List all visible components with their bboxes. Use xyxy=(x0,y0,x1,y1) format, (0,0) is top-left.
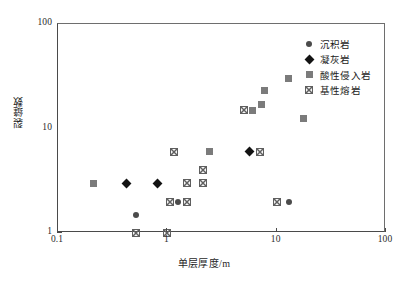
data-point xyxy=(199,179,207,187)
data-point xyxy=(183,198,191,206)
data-point xyxy=(166,198,174,206)
legend-item: 沉积岩 xyxy=(302,36,386,52)
data-point xyxy=(273,198,281,206)
x-axis-title: 单层厚度/m xyxy=(0,255,408,270)
data-point xyxy=(286,199,292,205)
legend-item: 酸性侵入岩 xyxy=(302,67,386,83)
x-tick-mark xyxy=(276,228,277,232)
legend-item: 基性熔岩 xyxy=(302,83,386,99)
data-point xyxy=(261,87,268,94)
legend-label: 凝灰岩 xyxy=(320,52,351,66)
figure-scatter-plot: 裂缝数 110100 0.1110100 单层厚度/m 沉积岩凝灰岩酸性侵入岩基… xyxy=(0,0,408,282)
data-point xyxy=(206,148,213,155)
legend-swatch xyxy=(302,84,316,96)
x-tick-label: 0.1 xyxy=(37,234,77,244)
data-point xyxy=(256,148,264,156)
data-point xyxy=(244,147,254,157)
y-tick-label: 100 xyxy=(22,17,52,27)
legend-label: 沉积岩 xyxy=(320,37,351,51)
marker-x-in-square xyxy=(305,86,313,94)
legend-swatch xyxy=(302,38,316,50)
data-point xyxy=(90,180,97,187)
x-tick-mark xyxy=(385,228,386,232)
x-tick-label: 10 xyxy=(256,234,296,244)
x-tick-mark xyxy=(166,228,167,232)
marker-square xyxy=(306,71,313,78)
data-point xyxy=(249,107,256,114)
data-point xyxy=(240,106,248,114)
legend-label: 基性熔岩 xyxy=(320,83,361,97)
data-point xyxy=(133,212,139,218)
data-point xyxy=(132,229,140,237)
data-point xyxy=(175,199,181,205)
legend-swatch xyxy=(302,69,316,81)
x-tick-label: 1 xyxy=(146,234,186,244)
data-point xyxy=(183,179,191,187)
legend-item: 凝灰岩 xyxy=(302,52,386,68)
data-point xyxy=(170,148,178,156)
legend-swatch xyxy=(302,53,316,65)
y-tick-mark xyxy=(57,232,62,233)
legend-label: 酸性侵入岩 xyxy=(320,68,371,82)
marker-diamond xyxy=(304,54,314,64)
x-tick-label: 100 xyxy=(365,234,405,244)
y-tick-label: 10 xyxy=(22,122,52,132)
data-point xyxy=(285,75,292,82)
data-point xyxy=(258,101,265,108)
legend: 沉积岩凝灰岩酸性侵入岩基性熔岩 xyxy=(302,36,386,98)
marker-circle xyxy=(306,41,312,47)
data-point xyxy=(153,178,163,188)
data-point xyxy=(199,166,207,174)
data-point xyxy=(121,178,131,188)
data-point xyxy=(300,115,307,122)
